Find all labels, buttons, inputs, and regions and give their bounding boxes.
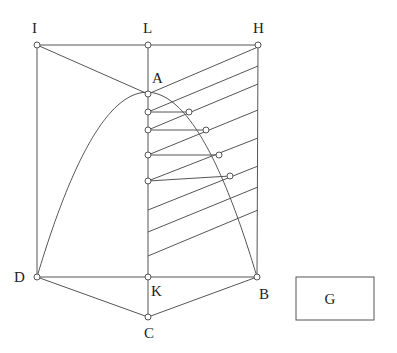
axis-point-2: [145, 127, 151, 133]
label-h: H: [253, 20, 264, 36]
point-d: [34, 274, 40, 280]
labels-layer: ILHADKBC: [14, 20, 269, 341]
slanted-line-4: [148, 110, 258, 155]
slanted-line-2: [148, 66, 258, 112]
segment-ia: [37, 45, 148, 94]
axis-point-4: [145, 178, 151, 184]
parabolic-curve: [37, 92, 257, 277]
label-i: I: [32, 20, 37, 36]
point-k: [145, 274, 151, 280]
connector-line-4: [148, 176, 230, 181]
point-i: [34, 42, 40, 48]
curve-point-1: [186, 109, 192, 115]
label-a: A: [152, 70, 163, 86]
g-label: G: [325, 291, 336, 307]
slanted-line-5: [148, 138, 258, 181]
label-k: K: [151, 283, 162, 299]
slanted-line-7: [148, 187, 258, 232]
curve-point-3: [216, 152, 222, 158]
axis-point-1: [145, 109, 151, 115]
point-h: [255, 42, 261, 48]
curve-point-2: [203, 127, 209, 133]
curve-point-4: [227, 173, 233, 179]
point-a: [145, 91, 151, 97]
label-d: D: [14, 269, 25, 285]
point-l: [145, 42, 151, 48]
geometry-diagram: ILHADKBC G: [0, 0, 397, 353]
label-c: C: [144, 325, 154, 341]
label-b: B: [259, 286, 269, 302]
point-c: [145, 314, 151, 320]
label-l: L: [143, 20, 152, 36]
slanted-line-8: [148, 210, 258, 256]
slanted-line-1: [148, 47, 258, 94]
axis-point-3: [145, 152, 151, 158]
segment-dc: [37, 277, 148, 317]
g-box: G: [296, 277, 374, 320]
slanted-line-6: [148, 166, 258, 210]
segment-hb: [257, 45, 258, 277]
segment-cb: [148, 277, 257, 317]
point-b: [254, 274, 260, 280]
slanted-line-3: [148, 84, 258, 130]
